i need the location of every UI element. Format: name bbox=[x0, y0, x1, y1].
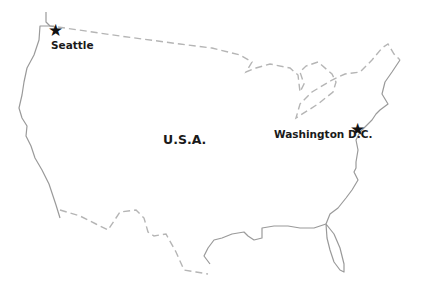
city-label-seattle: Seattle bbox=[51, 39, 94, 51]
west-coastline bbox=[19, 26, 60, 218]
canada-border bbox=[58, 27, 400, 118]
mexico-border bbox=[60, 210, 208, 274]
city-label-washington-dc: Washington D.C. bbox=[274, 128, 372, 140]
seattle-star-icon: ★ bbox=[48, 22, 63, 39]
gulf-coastline bbox=[204, 224, 326, 264]
country-label-usa: U.S.A. bbox=[163, 132, 206, 147]
east-coastline bbox=[326, 60, 400, 272]
